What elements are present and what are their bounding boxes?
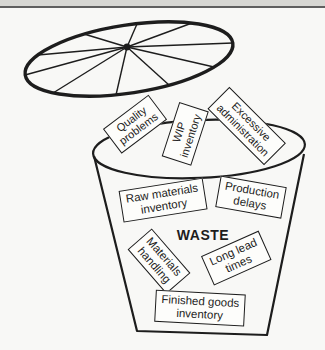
waste-label: WASTE [177,227,229,243]
trash-lid-icon [20,10,238,109]
lid-hub [124,44,131,51]
label-finished-goods-inventory: Finished goods inventory [154,290,246,326]
diagram-page: Quality problems WIP inventory Excessive… [0,0,325,350]
